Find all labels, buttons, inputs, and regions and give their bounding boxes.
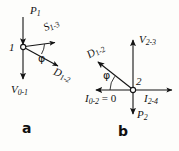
angle-arc-phi-b — [110, 76, 115, 90]
vector-label-v0-1: V0-1 — [11, 84, 28, 97]
vector-s1-3-shaft — [25, 43, 55, 47]
vector-label-i0-2: I0-2 = 0 — [85, 93, 116, 106]
vector-label-v2-3: V2-3 — [139, 34, 156, 47]
node-label-1: 1 — [9, 42, 15, 53]
angle-label-phi-a: φ — [38, 53, 45, 64]
node-label-2: 2 — [136, 76, 142, 87]
panel-letter-a: a — [22, 120, 31, 136]
node-1-marker — [21, 44, 26, 49]
vector-label-p1: P1 — [30, 5, 41, 18]
figure-canvas: P1 1 S1-3 φ D1-2 V0-1 a V2-3 D1-2 φ 2 I0… — [0, 0, 179, 151]
panel-letter-b: b — [118, 123, 128, 139]
vector-label-i2-4: I2-4 — [144, 93, 158, 106]
angle-label-phi-b: φ — [103, 70, 110, 81]
node-2-marker — [130, 87, 135, 92]
vector-label-p2: P2 — [137, 109, 148, 122]
